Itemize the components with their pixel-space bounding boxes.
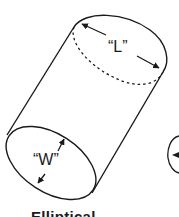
elliptical-cylinder-diagram <box>0 0 179 217</box>
adjacent-shape-arrowhead <box>172 152 179 158</box>
width-arrow-down <box>38 174 45 183</box>
shape-caption: Elliptical <box>31 208 96 217</box>
length-arrow-left <box>82 24 106 35</box>
width-label: “W” <box>33 151 59 169</box>
cylinder-left-edge <box>7 27 74 135</box>
width-arrow-up <box>58 139 64 151</box>
cylinder-right-edge <box>92 72 163 193</box>
length-label: “L” <box>108 38 128 56</box>
length-arrow-right <box>137 56 159 68</box>
